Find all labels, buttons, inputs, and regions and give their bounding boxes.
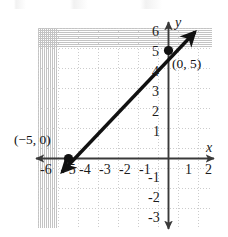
y-tick-6: 6 <box>152 25 159 39</box>
y-tick-5: 5 <box>152 45 159 59</box>
x-tick-2: 2 <box>205 163 212 177</box>
x-tick-neg-5: -5 <box>64 163 76 177</box>
y-tick-2: 2 <box>152 105 159 119</box>
y-tick-neg-3: -3 <box>148 211 160 225</box>
coordinate-plane-figure: 6 5 4 3 2 1 -1 -2 -3 -6 -5 -4 -3 -2 -1 1… <box>0 0 228 237</box>
y-tick-4: 4 <box>152 65 159 79</box>
x-tick-neg-6: -6 <box>40 163 52 177</box>
x-axis-label: x <box>206 141 212 155</box>
x-tick-1: 1 <box>185 163 192 177</box>
y-tick-3: 3 <box>152 85 159 99</box>
plotted-line <box>62 32 195 172</box>
x-tick-neg-2: -2 <box>119 163 131 177</box>
plot-canvas <box>0 0 228 237</box>
y-tick-1: 1 <box>153 125 160 139</box>
x-tick-neg-1: -1 <box>139 163 151 177</box>
y-intercept-annotation: (0, 5) <box>172 57 201 71</box>
y-intercept-point <box>164 46 173 55</box>
x-tick-neg-4: -4 <box>79 163 91 177</box>
x-intercept-annotation: (−5, 0) <box>14 133 51 147</box>
y-tick-neg-2: -2 <box>148 191 160 205</box>
x-tick-neg-3: -3 <box>99 163 111 177</box>
y-axis-label: y <box>175 16 181 30</box>
